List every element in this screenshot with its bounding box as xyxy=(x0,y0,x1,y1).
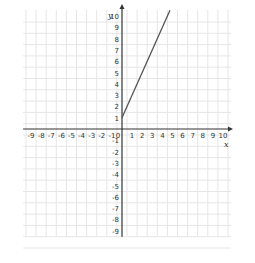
x-tick-label: 1 xyxy=(130,132,134,140)
y-tick-label: 7 xyxy=(115,47,119,55)
y-tick-label: 6 xyxy=(115,58,120,66)
x-tick-label: -9 xyxy=(28,132,35,140)
y-tick-label: -2 xyxy=(112,149,119,157)
x-tick-label: -4 xyxy=(78,132,86,140)
y-tick-label: -5 xyxy=(112,183,119,191)
x-tick-label: 3 xyxy=(150,132,154,140)
x-tick-label: -2 xyxy=(98,132,105,140)
x-tick-label: 2 xyxy=(140,132,144,140)
y-tick-label: -3 xyxy=(112,160,119,168)
x-tick-label: 9 xyxy=(211,132,215,140)
y-tick-label: -7 xyxy=(112,205,119,213)
x-tick-label: 6 xyxy=(180,132,185,140)
x-tick-label: -6 xyxy=(58,132,66,140)
x-tick-label: 10 xyxy=(219,132,228,140)
x-tick-label: 8 xyxy=(201,132,205,140)
y-tick-label: -1 xyxy=(112,137,119,145)
y-tick-label: 3 xyxy=(115,92,119,100)
y-tick-label: 8 xyxy=(115,36,119,44)
coordinate-plane: -9-8-7-6-5-4-3-2-10123456789101098765432… xyxy=(0,0,255,263)
x-tick-label: 7 xyxy=(190,132,194,140)
y-axis-label: y xyxy=(107,11,113,20)
y-tick-label: 1 xyxy=(115,115,119,123)
y-tick-label: 9 xyxy=(115,24,119,32)
x-tick-label: -8 xyxy=(38,132,45,140)
axes xyxy=(23,4,233,237)
y-tick-label: -9 xyxy=(112,228,119,236)
x-tick-label: -5 xyxy=(68,132,75,140)
y-tick-label: 2 xyxy=(115,103,119,111)
y-axis-arrow-icon xyxy=(120,4,125,9)
y-tick-label: -8 xyxy=(112,216,119,224)
y-tick-label: 4 xyxy=(115,81,120,89)
x-tick-label: 4 xyxy=(160,132,165,140)
x-axis-arrow-icon xyxy=(228,127,233,132)
y-tick-label: 5 xyxy=(115,70,119,78)
x-tick-label: -3 xyxy=(88,132,95,140)
x-axis-label: x xyxy=(224,140,229,149)
x-tick-label: 5 xyxy=(170,132,174,140)
y-tick-label: -6 xyxy=(112,194,120,202)
y-tick-label: -4 xyxy=(112,171,120,179)
x-tick-label: -7 xyxy=(48,132,55,140)
